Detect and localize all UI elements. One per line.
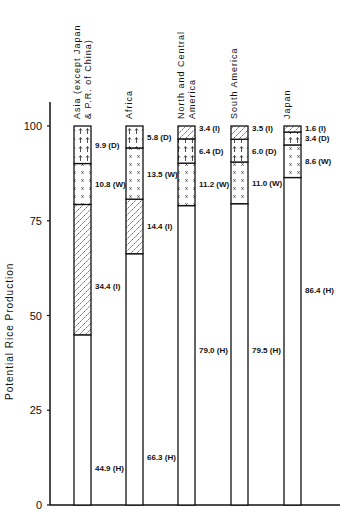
bar-segment-W [231, 162, 248, 204]
category-label: America [187, 79, 197, 119]
bar-segment-H [126, 254, 143, 505]
bar-segment-H [284, 178, 301, 505]
bar-segment-D [74, 126, 91, 164]
segment-value-label: 79.5 (H) [252, 346, 281, 355]
y-tick-label: 75 [30, 215, 42, 227]
bar-segment-W [284, 145, 301, 178]
bar-segment-W [126, 148, 143, 199]
segment-value-label: 10.8 (W) [95, 180, 126, 189]
bar-segment-I [178, 126, 195, 139]
bar-segment-H [178, 206, 195, 505]
segment-value-label: 5.8 (D) [147, 133, 172, 142]
y-tick-label: 100 [24, 120, 42, 132]
y-tick-label: 25 [30, 404, 42, 416]
segment-value-label: 3.4 (D) [305, 134, 330, 143]
category-label: & P.R. of China) [83, 39, 93, 119]
bar-segment-D [231, 139, 248, 162]
stacked-bar-chart: x 0255075100Potential Rice Production 44… [0, 0, 346, 516]
bar-segment-I [74, 204, 91, 334]
segment-value-label: 11.2 (W) [199, 180, 230, 189]
category-label: Asia (except Japan [72, 24, 82, 119]
segment-value-label: 3.4 (I) [199, 124, 220, 133]
segment-value-label: 44.9 (H) [95, 464, 124, 473]
segment-value-label: 6.4 (D) [199, 147, 224, 156]
bar-segment-W [74, 164, 91, 205]
category-label: North and Central [176, 31, 186, 119]
bar-segment-H [231, 204, 248, 505]
bar-segment-D [284, 132, 301, 145]
segment-value-label: 34.4 (I) [95, 282, 121, 291]
category-label: Africa [124, 90, 134, 119]
segment-value-label: 66.3 (H) [147, 453, 176, 462]
segment-value-label: 13.5 (W) [147, 170, 178, 179]
bar-segment-I [126, 199, 143, 254]
segment-value-label: 79.0 (H) [199, 346, 228, 355]
bar-segment-W [178, 163, 195, 205]
bar-segment-D [126, 126, 143, 148]
segment-value-label: 8.6 (W) [305, 157, 332, 166]
segment-value-label: 1.6 (I) [305, 124, 326, 133]
y-tick-label: 0 [36, 499, 42, 511]
bar-segment-H [74, 335, 91, 505]
segment-value-label: 6.0 (D) [252, 147, 277, 156]
bar-segment-I [231, 126, 248, 139]
segment-value-label: 86.4 (H) [305, 286, 334, 295]
category-label: Japan [282, 89, 292, 119]
segment-value-label: 11.0 (W) [252, 179, 283, 188]
y-tick-label: 50 [30, 310, 42, 322]
segment-value-label: 14.4 (I) [147, 222, 173, 231]
bar-segment-D [178, 139, 195, 163]
segment-value-label: 3.5 (I) [252, 124, 273, 133]
segment-value-label: 9.9 (D) [95, 141, 120, 150]
category-label: South America [229, 47, 239, 119]
bar-segment-I [284, 126, 301, 132]
y-axis-title: Potential Rice Production [4, 263, 15, 400]
